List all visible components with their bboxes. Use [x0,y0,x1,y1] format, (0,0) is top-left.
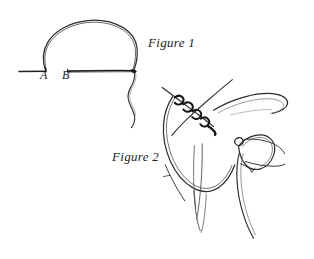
horizontal-line-right-shade [69,72,135,73]
arch-loop-inner [45,22,136,71]
instrument-thread-shade [241,154,256,235]
figure-2-caption: Figure 2 [112,149,159,165]
crossing-strand-upper-right [172,80,233,136]
trailing-thread-left-2 [201,194,206,232]
twisted-double-wrap-3 [192,110,201,119]
arch-loop-outer [44,20,138,71]
needle-tip-shade [231,110,272,115]
hanging-thread-tail [128,73,135,128]
left-thread-stub [163,175,170,176]
point-a-label: A [40,68,47,83]
large-thread-loop-inner [166,99,232,189]
figure-1-drawing [19,20,137,127]
arch-right-junction [131,70,136,73]
curved-needle-outer [214,94,288,114]
figure-2-drawing [162,80,287,239]
horizontal-line-right [68,71,135,72]
sketch-page: Figure 1 Figure 2 A B [0,0,314,259]
curved-needle-inner [218,99,283,114]
hanging-thread-tail-shade [130,73,136,115]
inner-thread-2 [197,144,203,219]
figure-1-caption: Figure 1 [148,35,195,51]
twisted-wrap-tail [208,126,216,135]
point-b-label: B [62,68,69,83]
needle-holder-upper-arm [244,139,285,153]
